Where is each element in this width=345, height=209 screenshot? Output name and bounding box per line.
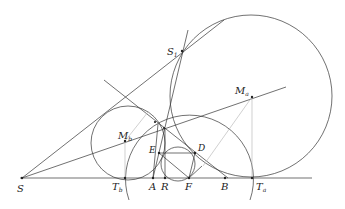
segment-e-f: [159, 153, 189, 178]
label-mb: Mb: [117, 130, 132, 142]
circle-small: [161, 147, 195, 181]
point-upper1: [154, 121, 156, 123]
tangent-line-upper: [22, 20, 224, 178]
point-r: [164, 177, 166, 179]
label-a: A: [148, 181, 156, 192]
label-s1: S1: [167, 46, 178, 58]
point-ma: [251, 96, 253, 98]
geometry-diagram: S S1 Ma Mb E D Tb A R F B Ta: [0, 0, 345, 209]
point-s: [21, 177, 23, 179]
point-s1: [181, 50, 183, 52]
point-e: [158, 152, 160, 154]
diagonal-line: [104, 80, 228, 178]
point-f: [188, 177, 190, 179]
label-d: D: [197, 143, 205, 153]
segment-d-f: [189, 153, 195, 178]
label-e: E: [148, 145, 156, 155]
point-ta: [251, 177, 253, 179]
segment-f-up: [189, 166, 202, 178]
label-ma: Ma: [234, 85, 249, 97]
label-f: F: [184, 181, 193, 192]
label-b: B: [220, 181, 228, 192]
point-a: [152, 177, 154, 179]
label-s: S: [17, 183, 24, 194]
point-d: [194, 152, 196, 154]
point-b: [224, 177, 226, 179]
label-tb: Tb: [112, 181, 123, 193]
point-tb: [124, 177, 126, 179]
label-ta: Ta: [256, 181, 267, 193]
point-upper2: [163, 127, 165, 129]
label-r: R: [160, 181, 169, 192]
